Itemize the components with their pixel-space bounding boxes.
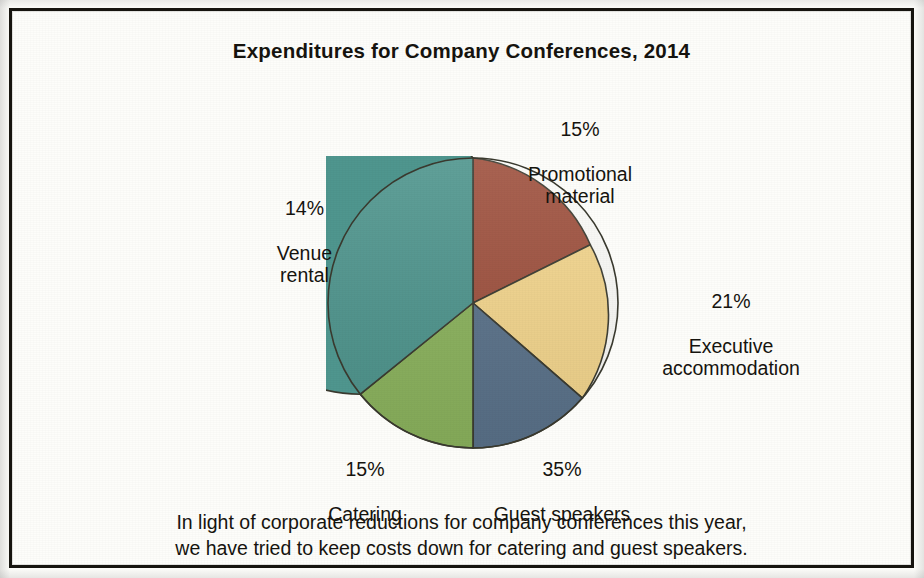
pie-label-catering-percent: 15% (300, 458, 430, 481)
pie-label-venue-name: Venue rental (237, 242, 372, 287)
pie-label-guest-name: Guest speakers (467, 503, 657, 526)
figure-caption: In light of corporate reductions for com… (12, 510, 911, 561)
figure-caption-line-2: we have tried to keep costs down for cat… (12, 536, 911, 562)
chart-title: Expenditures for Company Conferences, 20… (12, 39, 911, 63)
pie-label-promotional-material: 15% Promotional material (490, 95, 670, 231)
figure-frame: Expenditures for Company Conferences, 20… (9, 8, 914, 568)
pie-label-guest-percent: 35% (467, 458, 657, 481)
figure-caption-line-1: In light of corporate reductions for com… (12, 510, 911, 536)
pie-label-venue-percent: 14% (237, 197, 372, 220)
pie-label-guest-speakers: 35% Guest speakers (467, 435, 657, 548)
pie-label-executive-percent: 21% (626, 290, 836, 313)
pie-label-executive-name: Executive accommodation (626, 335, 836, 380)
scanned-page: Expenditures for Company Conferences, 20… (0, 0, 924, 578)
pie-label-promotional-percent: 15% (490, 118, 670, 141)
pie-label-venue-rental: 14% Venue rental (237, 174, 372, 310)
pie-label-promotional-name: Promotional material (490, 163, 670, 208)
pie-label-catering-name: Catering (300, 503, 430, 526)
pie-label-catering: 15% Catering (300, 435, 430, 548)
pie-label-executive-accommodation: 21% Executive accommodation (626, 267, 836, 403)
